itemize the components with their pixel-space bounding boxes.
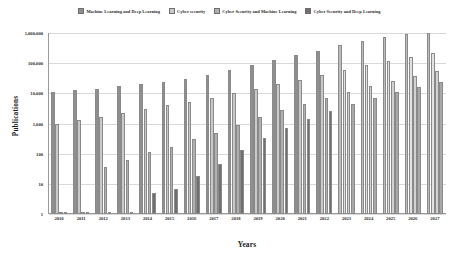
bar[interactable]: [218, 164, 222, 214]
bar[interactable]: [325, 98, 329, 214]
bar[interactable]: [298, 80, 302, 214]
bar[interactable]: [387, 61, 391, 214]
bar-group: [225, 33, 247, 214]
bar-group: [159, 33, 181, 214]
bar[interactable]: [263, 138, 267, 214]
bar[interactable]: [427, 33, 431, 214]
bar[interactable]: [258, 117, 262, 214]
bar[interactable]: [152, 193, 156, 214]
x-axis-tick-label: 2017: [203, 216, 225, 221]
legend-item[interactable]: Machine Learning and Deep Learning: [78, 8, 160, 14]
bar[interactable]: [130, 212, 134, 214]
bar[interactable]: [51, 92, 55, 214]
bar[interactable]: [166, 105, 170, 214]
bar[interactable]: [285, 128, 289, 214]
bar[interactable]: [383, 37, 387, 214]
legend-item[interactable]: Cyber Security and Deep Learning: [305, 8, 380, 14]
legend-item[interactable]: Cyber Security and Machine Learning: [214, 8, 296, 14]
bar[interactable]: [369, 86, 373, 214]
bar[interactable]: [320, 75, 324, 214]
bar[interactable]: [431, 53, 435, 214]
y-axis-tick-label: 10,000: [30, 91, 43, 96]
bar[interactable]: [373, 98, 377, 214]
bar[interactable]: [240, 150, 244, 214]
bar[interactable]: [192, 139, 196, 214]
bar[interactable]: [343, 70, 347, 214]
bar[interactable]: [228, 70, 232, 214]
bar[interactable]: [188, 102, 192, 214]
x-axis-tick-label: 2014: [136, 216, 158, 221]
bar[interactable]: [144, 109, 148, 214]
bar[interactable]: [214, 133, 218, 214]
bar[interactable]: [250, 65, 254, 214]
bar[interactable]: [391, 81, 395, 214]
bar[interactable]: [351, 104, 355, 214]
bar[interactable]: [236, 125, 240, 214]
bar[interactable]: [347, 92, 351, 214]
bar[interactable]: [405, 34, 409, 214]
bar[interactable]: [59, 212, 63, 214]
bar[interactable]: [417, 87, 421, 214]
bar-group: [181, 33, 203, 214]
x-axis-tick-label: 2011: [70, 216, 92, 221]
legend-swatch-icon: [169, 8, 175, 14]
bar[interactable]: [206, 75, 210, 214]
x-axis-tick-label: 2021: [291, 216, 313, 221]
bar[interactable]: [184, 79, 188, 214]
bar-group: [48, 33, 70, 214]
bar[interactable]: [307, 119, 311, 214]
x-axis-tick-label: 2020: [269, 216, 291, 221]
bar[interactable]: [272, 60, 276, 214]
bar[interactable]: [148, 152, 152, 214]
bar[interactable]: [254, 89, 258, 214]
bar[interactable]: [86, 212, 90, 214]
legend-item[interactable]: Cyber security: [169, 8, 205, 14]
bar-group: [424, 33, 446, 214]
bar[interactable]: [139, 84, 143, 214]
bar[interactable]: [303, 104, 307, 214]
bar[interactable]: [316, 51, 320, 214]
publications-bar-chart: Machine Learning and Deep LearningCyber …: [0, 0, 459, 263]
bar-group: [203, 33, 225, 214]
bar-group: [291, 33, 313, 214]
bar[interactable]: [77, 120, 81, 214]
bar[interactable]: [95, 89, 99, 214]
bar[interactable]: [361, 41, 365, 214]
bar[interactable]: [435, 71, 439, 214]
bar[interactable]: [196, 176, 200, 214]
x-axis-tick-labels: 2010201120122013201420152016201720182019…: [48, 216, 446, 221]
bar[interactable]: [395, 92, 399, 214]
bar[interactable]: [329, 111, 333, 214]
bar[interactable]: [64, 212, 68, 214]
bar[interactable]: [99, 117, 103, 214]
bar[interactable]: [121, 113, 125, 214]
bar[interactable]: [108, 212, 112, 214]
bar[interactable]: [280, 110, 284, 214]
bar[interactable]: [126, 160, 130, 214]
bar[interactable]: [104, 167, 108, 214]
bar-group: [247, 33, 269, 214]
bar[interactable]: [413, 76, 417, 214]
x-axis-tick-label: 2019: [247, 216, 269, 221]
bar[interactable]: [276, 84, 280, 214]
bar[interactable]: [174, 189, 178, 214]
x-axis-tick-label: 2026: [402, 216, 424, 221]
bar[interactable]: [170, 147, 174, 214]
x-axis-tick-label: 2015: [159, 216, 181, 221]
bar[interactable]: [232, 93, 236, 214]
bar[interactable]: [210, 98, 214, 214]
bar[interactable]: [73, 90, 77, 214]
bar[interactable]: [162, 82, 166, 214]
bar[interactable]: [81, 212, 85, 214]
bar[interactable]: [338, 45, 342, 214]
bar-group: [358, 33, 380, 214]
bar[interactable]: [55, 124, 59, 215]
bar-group: [380, 33, 402, 214]
bar[interactable]: [365, 65, 369, 214]
bar[interactable]: [439, 82, 443, 214]
x-axis-tick-label: 2013: [114, 216, 136, 221]
legend-swatch-icon: [78, 8, 84, 14]
bar[interactable]: [117, 86, 121, 214]
bar[interactable]: [409, 57, 413, 214]
bar[interactable]: [294, 55, 298, 214]
